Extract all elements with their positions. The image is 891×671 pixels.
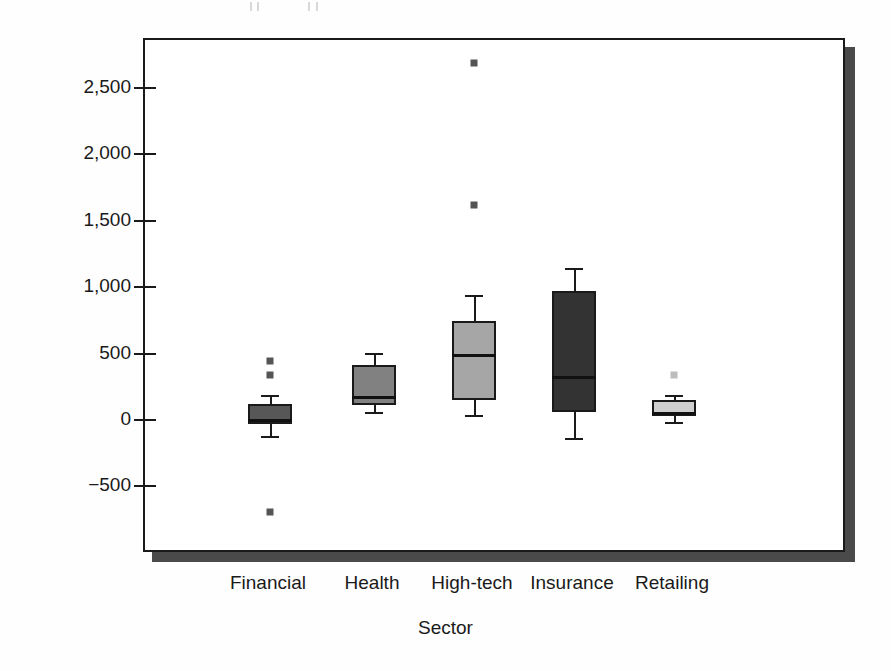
outlier-point (267, 357, 274, 364)
outlier-point (267, 372, 274, 379)
x-tick-label-retailing: Retailing (635, 572, 709, 594)
median-line (552, 376, 596, 379)
y-tick-mark (134, 220, 156, 222)
x-tick-label-health: Health (345, 572, 400, 594)
cap-lower (261, 436, 279, 438)
y-tick-label: −500 (88, 474, 131, 496)
outlier-point (267, 508, 274, 515)
median-line (452, 354, 496, 357)
x-tick-label-insurance: Insurance (530, 572, 613, 594)
x-tick-label-high-tech: High-tech (431, 572, 512, 594)
y-tick-mark (134, 353, 156, 355)
cap-upper (261, 395, 279, 397)
y-tick-mark (134, 485, 156, 487)
whisker-lower (474, 400, 476, 415)
cap-upper (465, 295, 483, 297)
y-tick-mark (134, 286, 156, 288)
x-tick-label-financial: Financial (230, 572, 306, 594)
cap-lower (565, 438, 583, 440)
y-tick-label: 1,000 (83, 275, 131, 297)
cap-upper (365, 353, 383, 355)
whisker-lower (270, 424, 272, 435)
cap-lower (365, 412, 383, 414)
y-tick-label: 2,000 (83, 142, 131, 164)
outlier-point (471, 202, 478, 209)
y-tick-mark (134, 87, 156, 89)
y-tick-label: 500 (99, 342, 131, 364)
median-line (652, 412, 696, 415)
y-tick-mark (134, 153, 156, 155)
box-plot-figure: −50005001,0001,5002,0002,500 Net profits… (0, 0, 891, 671)
cap-lower (465, 415, 483, 417)
median-line (352, 396, 396, 399)
plot-area: −50005001,0001,5002,0002,500 (143, 38, 845, 552)
whisker-lower (374, 405, 376, 412)
box-iqr (552, 291, 596, 413)
scan-artifacts (250, 2, 450, 12)
y-tick-label: 2,500 (83, 76, 131, 98)
x-axis-title: Sector (0, 617, 891, 639)
cap-upper (565, 268, 583, 270)
whisker-lower (574, 412, 576, 438)
cap-upper (665, 395, 683, 397)
cap-lower (665, 422, 683, 424)
outlier-point (471, 60, 478, 67)
whisker-upper (574, 268, 576, 291)
y-tick-label: 1,500 (83, 209, 131, 231)
y-tick-label: 0 (120, 408, 131, 430)
box-iqr (452, 321, 496, 401)
box-iqr (352, 365, 396, 405)
whisker-upper (474, 295, 476, 321)
outlier-point (671, 372, 678, 379)
median-line (248, 419, 292, 422)
y-tick-mark (134, 419, 156, 421)
